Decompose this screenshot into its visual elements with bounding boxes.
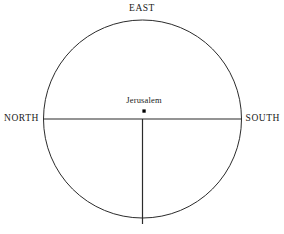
diagram-canvas: EAST NORTH SOUTH Jerusalem [0, 0, 284, 234]
place-label-jerusalem: Jerusalem [126, 96, 162, 105]
direction-label-north: NORTH [4, 114, 39, 124]
direction-label-south: SOUTH [246, 114, 280, 124]
t-o-map-svg [0, 0, 284, 234]
direction-label-east: EAST [129, 4, 155, 14]
jerusalem-center-dot-icon [142, 109, 145, 112]
